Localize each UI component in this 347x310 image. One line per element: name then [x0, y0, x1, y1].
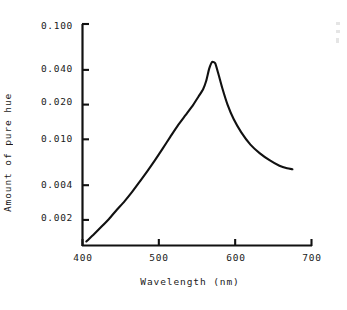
plot-area: [0, 0, 347, 310]
axis-spines: [82, 24, 312, 246]
figure-canvas: Amount of pure hue Wavelength (nm) 0.100…: [0, 0, 347, 310]
data-series-line: [86, 62, 292, 242]
